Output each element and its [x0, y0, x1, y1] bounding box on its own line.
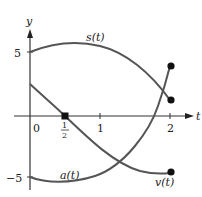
endpoint-a — [167, 62, 174, 69]
t-axis-arrow-icon — [185, 113, 194, 119]
endpoint-v — [167, 168, 174, 175]
tick-label-5: 5 — [14, 47, 21, 60]
tick-label-half-num: 1 — [62, 121, 67, 130]
y-axis-label: y — [25, 15, 33, 28]
label-a: a(t) — [60, 169, 80, 182]
tick-label-neg5: −5 — [6, 172, 22, 185]
endpoint-s — [167, 96, 174, 103]
tick-label-0: 0 — [33, 122, 40, 135]
t-axis-label: t — [196, 110, 201, 123]
label-v: v(t) — [155, 176, 174, 189]
label-s: s(t) — [86, 31, 105, 44]
tick-label-2: 2 — [167, 122, 174, 135]
y-axis-arrow-icon — [27, 29, 33, 38]
root-marker — [62, 113, 69, 120]
tick-label-half-den: 2 — [62, 131, 67, 140]
motion-graph: y t 5 −5 0 1 2 1 2 s(t) a(t) v(t) — [0, 0, 202, 197]
tick-label-1: 1 — [97, 122, 104, 135]
curve-s — [30, 43, 170, 100]
